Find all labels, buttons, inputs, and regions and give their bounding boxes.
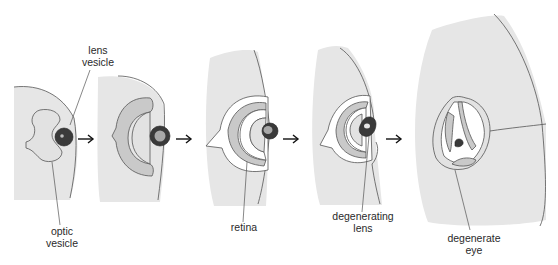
- stage-4-degenerating-lens: [312, 46, 382, 212]
- arrow-3: [283, 135, 298, 143]
- stage-2: [98, 76, 171, 202]
- arrow-1: [78, 135, 93, 143]
- label-degenerate-eye: degenerate eye: [444, 232, 504, 256]
- label-degenerating-lens: degenerating lens: [328, 210, 398, 234]
- label-optic-vesicle: optic vesicle: [42, 225, 82, 249]
- stage-5-degenerate-eye: [415, 14, 546, 230]
- arrow-2: [176, 135, 191, 143]
- stage-3-retina: [206, 50, 278, 222]
- label-retina: retina: [226, 221, 262, 233]
- arrow-4: [386, 135, 401, 143]
- label-lens-vesicle: lens vesicle: [78, 44, 118, 68]
- eye-development-diagram: [0, 0, 558, 265]
- stage-1-optic-vesicle: [14, 70, 90, 225]
